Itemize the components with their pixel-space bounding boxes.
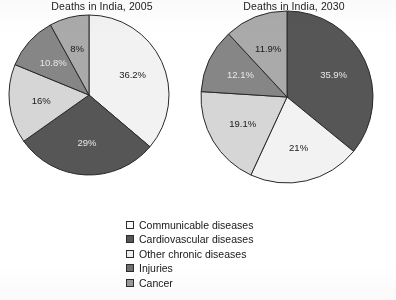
chart-title-2005: Deaths in India, 2005 — [6, 0, 198, 12]
legend-swatch-icon — [126, 221, 134, 229]
legend-label: Cardiovascular diseases — [139, 233, 253, 245]
slice-value-label: 19.1% — [229, 118, 256, 129]
slice-value-label: 12.1% — [227, 69, 254, 80]
slice-value-label: 16% — [32, 95, 52, 106]
charts-row: Deaths in India, 2005 36.2%29%16%10.8%8%… — [0, 0, 396, 215]
pie-2005: 36.2%29%16%10.8%8% — [6, 12, 172, 178]
legend-swatch-icon — [126, 250, 134, 258]
legend-label: Cancer — [139, 277, 173, 289]
legend-item[interactable]: Other chronic diseases — [126, 247, 253, 260]
legend-label: Communicable diseases — [139, 219, 253, 231]
slice-value-label: 21% — [289, 142, 309, 153]
slice-value-label: 10.8% — [40, 57, 67, 68]
pie-canvas-2030: 35.9%21%19.1%12.1%11.9% — [198, 8, 390, 186]
slice-value-label: 8% — [70, 43, 84, 54]
pie-2030: 35.9%21%19.1%12.1%11.9% — [198, 8, 376, 186]
legend-swatch-icon — [126, 279, 134, 287]
legend-swatch-icon — [126, 235, 134, 243]
legend-item[interactable]: Cancer — [126, 276, 253, 289]
legend: Communicable diseasesCardiovascular dise… — [126, 218, 253, 289]
slice-value-label: 29% — [77, 137, 97, 148]
slice-value-label: 36.2% — [119, 69, 146, 80]
legend-item[interactable]: Injuries — [126, 262, 253, 275]
legend-label: Injuries — [139, 262, 173, 274]
pie-canvas-2005: 36.2%29%16%10.8%8% — [6, 12, 198, 178]
legend-item[interactable]: Communicable diseases — [126, 218, 253, 231]
slice-value-label: 11.9% — [255, 43, 282, 54]
pie-chart-2030: Deaths in India, 2030 35.9%21%19.1%12.1%… — [198, 0, 390, 186]
pie-chart-2005: Deaths in India, 2005 36.2%29%16%10.8%8% — [6, 0, 198, 178]
slice-value-label: 35.9% — [320, 69, 347, 80]
chart-page: Deaths in India, 2005 36.2%29%16%10.8%8%… — [0, 0, 396, 300]
legend-label: Other chronic diseases — [139, 248, 246, 260]
legend-swatch-icon — [126, 264, 134, 272]
legend-item[interactable]: Cardiovascular diseases — [126, 233, 253, 246]
